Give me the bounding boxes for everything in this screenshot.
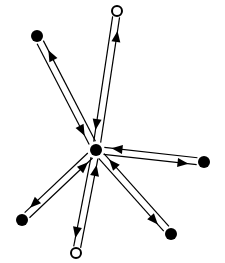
node-top: [112, 6, 122, 16]
node-right: [198, 156, 210, 168]
edge-bottom: [73, 157, 99, 248]
edges-group: [25, 16, 198, 247]
edge-bottom-left: [25, 153, 93, 218]
edge-top: [93, 16, 121, 142]
edge-top-left: [37, 41, 95, 145]
star-graph-diagram: [0, 0, 225, 263]
node-bottom-right: [165, 228, 177, 240]
node-hub: [90, 144, 102, 156]
node-bottom-left: [16, 214, 28, 226]
edge-bottom-right: [99, 154, 169, 231]
node-top-left: [31, 30, 43, 42]
node-bottom: [71, 248, 81, 258]
